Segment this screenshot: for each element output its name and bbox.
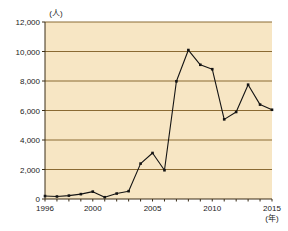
x-tick-label: 2005 xyxy=(144,204,162,213)
x-tick-label: 1996 xyxy=(36,204,54,213)
data-point-marker xyxy=(91,190,94,193)
y-tick-label: 6,000 xyxy=(20,107,41,116)
data-point-marker xyxy=(151,152,154,155)
y-tick-label: 0 xyxy=(36,195,41,204)
data-point-marker xyxy=(199,63,202,66)
data-point-marker xyxy=(56,195,59,198)
data-point-marker xyxy=(163,169,166,172)
x-tick-label: 2015 xyxy=(263,204,281,213)
data-point-marker xyxy=(115,192,118,195)
data-point-marker xyxy=(187,49,190,52)
y-axis-ticks: 02,0004,0006,0008,00010,00012,000 xyxy=(16,18,45,204)
y-tick-label: 12,000 xyxy=(16,18,41,27)
x-tick-label: 2010 xyxy=(203,204,221,213)
y-axis-unit-label: (人) xyxy=(49,9,63,18)
line-chart: 02,0004,0006,0008,00010,00012,000 199620… xyxy=(0,0,288,231)
y-tick-label: 10,000 xyxy=(16,48,41,57)
y-tick-label: 8,000 xyxy=(20,77,41,86)
data-point-marker xyxy=(44,195,47,198)
data-point-marker xyxy=(247,83,250,86)
data-point-marker xyxy=(175,80,178,83)
data-point-marker xyxy=(223,118,226,121)
chart-svg: 02,0004,0006,0008,00010,00012,000 199620… xyxy=(0,0,288,231)
data-point-marker xyxy=(127,190,130,193)
x-axis-ticks: 19962000200520102015 xyxy=(36,199,281,213)
x-axis-unit-label: (年) xyxy=(265,213,279,223)
data-point-marker xyxy=(139,162,142,165)
y-tick-label: 4,000 xyxy=(20,136,41,145)
data-point-marker xyxy=(235,111,238,114)
data-point-marker xyxy=(271,108,274,111)
data-point-marker xyxy=(68,194,71,197)
data-point-marker xyxy=(259,103,262,106)
data-point-marker xyxy=(211,68,214,71)
data-point-marker xyxy=(80,193,83,196)
data-point-marker xyxy=(103,196,106,199)
x-tick-label: 2000 xyxy=(84,204,102,213)
y-tick-label: 2,000 xyxy=(20,166,41,175)
